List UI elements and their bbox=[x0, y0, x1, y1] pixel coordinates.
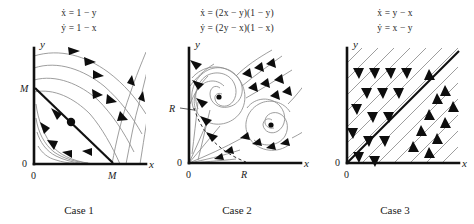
caption-case-3: Case 3 bbox=[316, 204, 474, 216]
phase-plane-svg-case-1: y x M 0 0 M bbox=[0, 42, 158, 182]
x-axis-label-case-2: x bbox=[303, 157, 309, 169]
flow-lines-case-1 bbox=[34, 52, 151, 164]
leader-line-R-case-2 bbox=[180, 108, 194, 110]
equation-xdot-case-2: ẋ = (2x − y)(1 − y) bbox=[158, 6, 316, 21]
fixed-point-spiral-1-case-2 bbox=[216, 94, 221, 99]
panel-case-3: ẋ = y − x ẏ = x − y bbox=[316, 0, 474, 224]
origin-label-x-case-2: 0 bbox=[186, 169, 191, 180]
flow-arrowheads-case-2 bbox=[190, 58, 292, 160]
caption-case-1: Case 1 bbox=[0, 204, 158, 216]
equation-xdot-case-1: ẋ = 1 − y bbox=[0, 6, 158, 21]
y-axis-label-case-1: y bbox=[39, 42, 45, 50]
flow-arrowheads-case-1 bbox=[40, 47, 145, 158]
plot-case-3: y x 0 0 bbox=[316, 42, 474, 182]
fixed-point-saddle-case-1 bbox=[67, 118, 75, 126]
equation-block-case-1: ẋ = 1 − y ẏ = 1 − x bbox=[0, 6, 158, 35]
flow-lines-case-2 bbox=[189, 50, 312, 163]
x-tick-R-case-2: R bbox=[240, 169, 247, 180]
phase-plane-svg-case-2: y x R 0 0 R bbox=[158, 42, 316, 182]
y-axis-label-case-2: y bbox=[194, 42, 200, 50]
y-tick-M-case-1: M bbox=[19, 83, 29, 94]
equation-xdot-case-3: ẋ = y − x bbox=[316, 6, 474, 21]
equation-block-case-3: ẋ = y − x ẏ = x − y bbox=[316, 6, 474, 35]
origin-label-y-case-2: 0 bbox=[177, 157, 182, 168]
phase-portrait-figure: ẋ = 1 − y ẏ = 1 − x bbox=[0, 0, 474, 224]
equation-ydot-case-3: ẏ = x − y bbox=[316, 21, 474, 36]
plot-case-1: y x M 0 0 M bbox=[0, 42, 158, 182]
plot-case-2: y x R 0 0 R bbox=[158, 42, 316, 182]
x-axis-label-case-3: x bbox=[461, 157, 467, 169]
origin-label-x-case-3: 0 bbox=[344, 169, 349, 180]
equation-ydot-case-1: ẏ = 1 − x bbox=[0, 21, 158, 36]
origin-label-x-case-1: 0 bbox=[31, 170, 36, 181]
fixed-point-spiral-2-case-2 bbox=[268, 122, 273, 127]
equation-ydot-case-2: ẏ = (2y − x)(1 − x) bbox=[158, 21, 316, 36]
panel-case-2: ẋ = (2x − y)(1 − y) ẏ = (2y − x)(1 − x) bbox=[158, 0, 316, 224]
panel-case-1: ẋ = 1 − y ẏ = 1 − x bbox=[0, 0, 158, 224]
equation-block-case-2: ẋ = (2x − y)(1 − y) ẏ = (2y − x)(1 − x) bbox=[158, 6, 316, 35]
caption-case-2: Case 2 bbox=[158, 204, 316, 216]
x-axis-label-case-1: x bbox=[148, 158, 154, 170]
origin-label-y-case-1: 0 bbox=[22, 158, 27, 169]
x-tick-M-case-1: M bbox=[107, 170, 117, 181]
y-axis-label-case-3: y bbox=[352, 42, 358, 50]
origin-label-y-case-3: 0 bbox=[335, 157, 340, 168]
phase-plane-svg-case-3: y x 0 0 bbox=[316, 42, 474, 182]
y-tick-R-case-2: R bbox=[168, 103, 175, 114]
